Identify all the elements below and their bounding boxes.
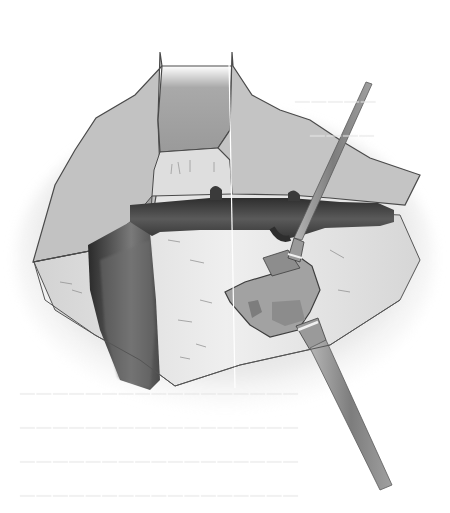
bleed-through-text: ──── — [310, 122, 376, 150]
central-cavity — [152, 66, 232, 196]
surgical-figure: ───── ──── ───────────────── ───────────… — [0, 0, 450, 513]
bleed-through-text: ───────────────── — [20, 448, 300, 476]
bleed-through-text: ───────────────── — [20, 414, 300, 442]
bleed-through-text: ───────────────── — [20, 482, 300, 510]
bleed-through-text: ───────────────── — [20, 380, 300, 408]
bleed-through-text: ───── — [295, 88, 377, 116]
